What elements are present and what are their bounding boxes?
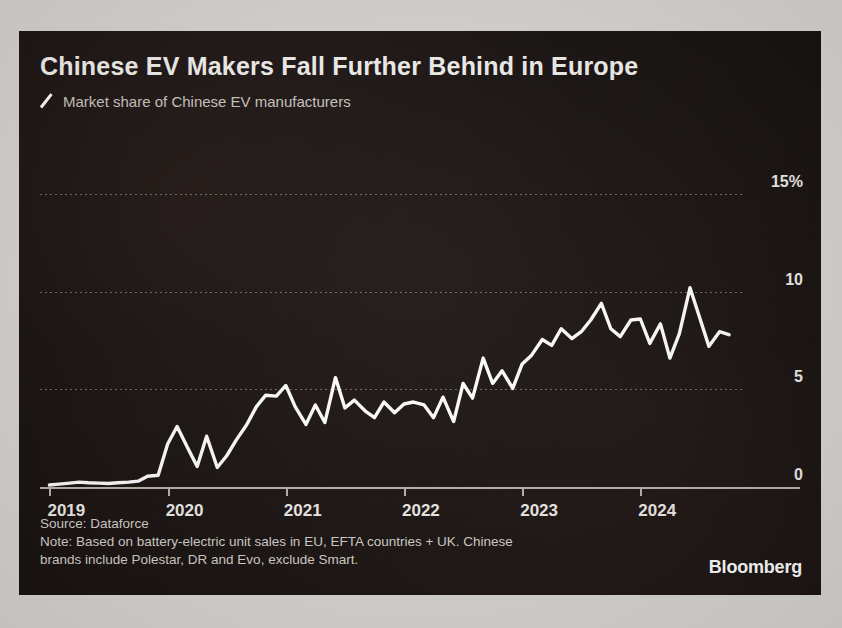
footer-note-line2: brands include Polestar, DR and Evo, exc… <box>40 551 690 569</box>
bloomberg-logo: Bloomberg <box>709 557 802 578</box>
page-root: Chinese EV Makers Fall Further Behind in… <box>0 0 842 628</box>
series-line-chart <box>19 31 821 595</box>
footer-note-line1: Note: Based on battery-electric unit sal… <box>40 533 690 551</box>
plot-area: 051015% 201920202021202220232024 <box>19 31 821 595</box>
chart-panel: Chinese EV Makers Fall Further Behind in… <box>19 31 821 595</box>
series-polyline <box>49 288 729 485</box>
footer-source: Source: Dataforce <box>40 515 690 533</box>
footer-notes: Source: Dataforce Note: Based on battery… <box>40 515 690 570</box>
